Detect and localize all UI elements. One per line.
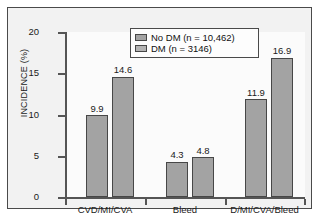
x-axis-label-group-2: D/MI/CVA/Bleed [222, 204, 307, 215]
y-tick-label-5: 5 [9, 151, 39, 161]
y-tick-mark-5 [58, 156, 66, 158]
figure-frame: INCIDENCE (%) 20 15 10 5 0 9.9 14.6 4.3 … [7, 7, 312, 209]
legend-swatch-icon-no-dm [135, 34, 147, 41]
y-axis-title: INCIDENCE (%) [19, 23, 29, 143]
bar-value-cvd-no-dm: 9.9 [83, 104, 111, 114]
bar-value-cvd-dm: 14.6 [109, 65, 137, 75]
bar-value-bleed-no-dm: 4.3 [163, 150, 191, 160]
legend: No DM (n = 10,462) DM (n = 3146) [130, 28, 259, 58]
bar-composite-dm [271, 58, 293, 197]
chart-figure: INCIDENCE (%) 20 15 10 5 0 9.9 14.6 4.3 … [0, 0, 320, 217]
x-axis-label-group-1: Bleed [145, 204, 225, 215]
bar-bleed-no-dm [166, 162, 188, 198]
y-tick-mark-15 [58, 73, 66, 75]
legend-swatch-icon-dm [135, 45, 147, 52]
legend-label-no-dm: No DM (n = 10,462) [151, 33, 235, 43]
legend-item-dm: DM (n = 3146) [135, 43, 254, 54]
bar-cvd-dm [112, 77, 134, 198]
y-tick-label-15: 15 [9, 68, 39, 78]
legend-item-no-dm: No DM (n = 10,462) [135, 32, 254, 43]
y-tick-mark-10 [58, 115, 66, 117]
bar-bleed-dm [192, 157, 214, 197]
bar-value-composite-dm: 16.9 [267, 46, 297, 56]
bar-composite-no-dm [245, 99, 267, 197]
x-axis-line [65, 197, 305, 199]
legend-label-dm: DM (n = 3146) [151, 44, 212, 54]
bar-cvd-no-dm [86, 115, 108, 197]
bar-value-bleed-dm: 4.8 [189, 146, 217, 156]
y-tick-label-10: 10 [9, 110, 39, 120]
bar-value-composite-no-dm: 11.9 [241, 88, 271, 98]
y-tick-mark-20 [58, 32, 66, 34]
y-tick-label-0: 0 [9, 192, 39, 202]
y-tick-label-20: 20 [9, 27, 39, 37]
x-axis-label-group-0: CVD/MI/CVA [65, 204, 145, 215]
